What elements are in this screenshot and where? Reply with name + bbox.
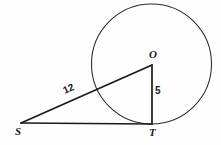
geometry-figure: S T O 12 5: [0, 0, 221, 145]
vertex-label-o: O: [149, 49, 157, 60]
segment-so: [21, 65, 152, 123]
segment-st: [21, 123, 152, 124]
length-label-ot: 5: [155, 86, 161, 96]
vertex-label-s: S: [15, 126, 21, 137]
geometry-canvas: [0, 0, 221, 145]
vertex-label-t: T: [149, 127, 156, 138]
